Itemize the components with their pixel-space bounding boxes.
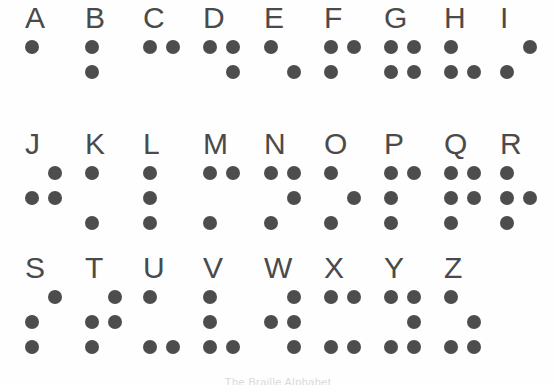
braille-dot-grid-n: [264, 166, 310, 238]
braille-dot-1-filled: [384, 290, 398, 304]
braille-dot-2-empty: [143, 315, 157, 329]
braille-cell-a: A: [25, 2, 85, 120]
braille-dot-6-empty: [226, 90, 240, 104]
braille-dot-1-filled: [85, 40, 99, 54]
letter-label-r: R: [500, 128, 544, 160]
braille-dot-6-filled: [287, 340, 301, 354]
braille-dot-5-filled: [523, 191, 537, 205]
braille-dot-4-empty: [166, 166, 180, 180]
braille-cell-z: Z: [444, 252, 504, 370]
braille-dot-4-empty: [523, 166, 537, 180]
braille-cell-m: M: [203, 128, 263, 246]
braille-dot-4-empty: [108, 40, 122, 54]
braille-dot-grid-t: [85, 290, 131, 362]
braille-dot-5-filled: [467, 191, 481, 205]
braille-dot-1-filled: [324, 40, 338, 54]
braille-dot-1-filled: [25, 40, 39, 54]
letter-label-a: A: [25, 2, 69, 34]
braille-dot-1-filled: [203, 166, 217, 180]
braille-dot-2-filled: [324, 65, 338, 79]
braille-dot-6-filled: [467, 340, 481, 354]
braille-dot-6-empty: [108, 90, 122, 104]
braille-dot-6-empty: [166, 216, 180, 230]
braille-cell-q: Q: [444, 128, 504, 246]
braille-dot-4-filled: [347, 290, 361, 304]
braille-dot-4-filled: [48, 166, 62, 180]
braille-row-2: STUVWXYZ: [0, 252, 556, 370]
letter-label-m: M: [203, 128, 247, 160]
braille-dot-4-filled: [226, 40, 240, 54]
braille-dot-2-filled: [85, 315, 99, 329]
braille-dot-grid-l: [143, 166, 189, 238]
braille-dot-6-empty: [287, 216, 301, 230]
braille-dot-3-filled: [444, 340, 458, 354]
braille-dot-1-filled: [143, 290, 157, 304]
braille-dot-3-filled: [384, 216, 398, 230]
braille-dot-3-filled: [324, 216, 338, 230]
braille-dot-4-filled: [287, 166, 301, 180]
braille-cell-k: K: [85, 128, 145, 246]
braille-dot-grid-a: [25, 40, 71, 112]
braille-dot-2-empty: [264, 65, 278, 79]
braille-dot-5-empty: [347, 65, 361, 79]
braille-dot-2-empty: [324, 191, 338, 205]
braille-dot-4-empty: [347, 166, 361, 180]
braille-dot-2-filled: [85, 65, 99, 79]
braille-dot-grid-v: [203, 290, 249, 362]
braille-dot-6-empty: [467, 216, 481, 230]
braille-dot-4-filled: [226, 166, 240, 180]
braille-dot-6-empty: [523, 90, 537, 104]
braille-dot-4-empty: [166, 290, 180, 304]
letter-label-k: K: [85, 128, 129, 160]
letter-label-g: G: [384, 2, 428, 34]
braille-dot-grid-c: [143, 40, 189, 112]
braille-dot-6-empty: [48, 216, 62, 230]
braille-dot-grid-d: [203, 40, 249, 112]
braille-dot-2-filled: [25, 315, 39, 329]
braille-dot-grid-m: [203, 166, 249, 238]
braille-dot-5-empty: [226, 315, 240, 329]
braille-dot-1-filled: [324, 166, 338, 180]
braille-dot-5-filled: [467, 315, 481, 329]
braille-dot-5-filled: [407, 315, 421, 329]
braille-dot-4-empty: [467, 40, 481, 54]
braille-alphabet-chart: ABCDEFGHIJKLMNOPQRSTUVWXYZ: [0, 0, 556, 385]
braille-dot-1-filled: [384, 40, 398, 54]
braille-dot-3-filled: [500, 216, 514, 230]
braille-dot-3-empty: [264, 90, 278, 104]
braille-dot-5-filled: [287, 315, 301, 329]
braille-cell-t: T: [85, 252, 145, 370]
letter-label-n: N: [264, 128, 308, 160]
braille-dot-3-empty: [25, 216, 39, 230]
braille-cell-f: F: [324, 2, 384, 120]
braille-dot-4-empty: [467, 290, 481, 304]
braille-dot-1-filled: [85, 166, 99, 180]
braille-dot-6-empty: [108, 216, 122, 230]
braille-cell-u: U: [143, 252, 203, 370]
braille-dot-6-empty: [407, 90, 421, 104]
braille-dot-1-empty: [25, 290, 39, 304]
braille-dot-grid-w: [264, 290, 310, 362]
braille-dot-4-filled: [108, 290, 122, 304]
braille-dot-2-empty: [264, 191, 278, 205]
braille-cell-x: X: [324, 252, 384, 370]
braille-dot-6-empty: [48, 90, 62, 104]
braille-dot-1-filled: [143, 166, 157, 180]
braille-dot-3-filled: [203, 340, 217, 354]
braille-dot-3-filled: [264, 216, 278, 230]
braille-dot-2-empty: [384, 315, 398, 329]
braille-dot-3-empty: [203, 90, 217, 104]
braille-dot-5-empty: [166, 191, 180, 205]
letter-label-q: Q: [444, 128, 488, 160]
braille-dot-4-filled: [407, 40, 421, 54]
braille-dot-6-empty: [407, 216, 421, 230]
braille-dot-4-filled: [347, 40, 361, 54]
braille-dot-5-filled: [287, 191, 301, 205]
braille-dot-2-filled: [500, 191, 514, 205]
braille-dot-5-filled: [226, 65, 240, 79]
braille-dot-6-empty: [347, 216, 361, 230]
braille-dot-grid-b: [85, 40, 131, 112]
braille-dot-grid-u: [143, 290, 189, 362]
braille-cell-j: J: [25, 128, 85, 246]
braille-dot-5-filled: [407, 65, 421, 79]
